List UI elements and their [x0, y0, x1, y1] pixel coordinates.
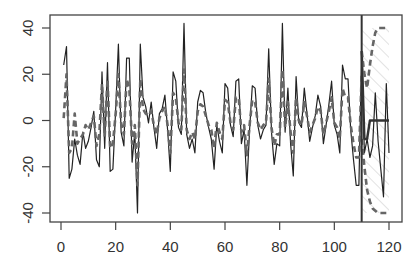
y-tick-label: -20 [19, 156, 36, 178]
chart: 020406080100120 -40-2002040 [0, 0, 414, 272]
fitted-line [64, 70, 362, 186]
x-tick-label: 100 [322, 238, 347, 255]
x-tick-label: 60 [217, 238, 234, 255]
y-tick-label: 0 [19, 116, 36, 124]
x-tick-label: 20 [107, 238, 124, 255]
x-tick-label: 120 [376, 238, 401, 255]
y-axis: -40-2002040 [19, 20, 50, 224]
x-axis: 020406080100120 [57, 222, 402, 255]
y-tick-label: 40 [19, 20, 36, 37]
y-tick-label: 20 [19, 66, 36, 83]
series-layer [64, 23, 389, 213]
x-tick-label: 40 [162, 238, 179, 255]
x-tick-label: 80 [271, 238, 288, 255]
x-tick-label: 0 [57, 238, 65, 255]
y-tick-label: -40 [19, 202, 36, 224]
observed-line [64, 23, 389, 213]
